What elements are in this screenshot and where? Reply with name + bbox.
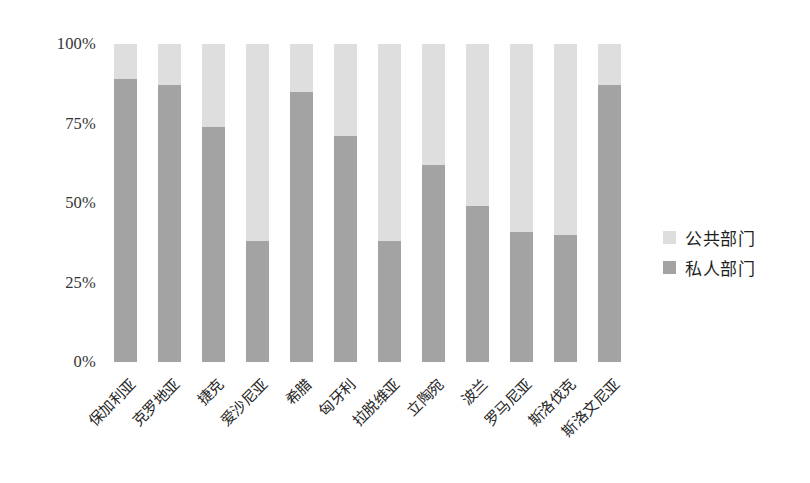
x-axis-tick-label: 保加利亚: [0, 373, 140, 483]
x-axis-tick-label: 希腊: [160, 373, 316, 483]
bar-segment-public: [334, 44, 357, 136]
legend-item[interactable]: 公共部门: [663, 222, 798, 252]
bar-segment-private: [378, 241, 401, 362]
legend-swatch-icon: [663, 231, 676, 244]
bar-segment-public: [290, 44, 313, 92]
bar-segment-public: [114, 44, 137, 79]
legend-swatch-icon: [663, 261, 676, 274]
bar-segment-private: [246, 241, 269, 362]
bar-segment-private: [598, 85, 621, 362]
bar-segment-private: [334, 136, 357, 362]
x-axis-tick-label: 斯洛伐克: [424, 373, 580, 483]
legend-label: 公共部门: [685, 225, 755, 250]
stacked-bar-chart: 0%25%50%75%100% 保加利亚克罗地亚捷克爱沙尼亚希腊匈牙利拉脱维亚立…: [0, 0, 810, 483]
x-axis-tick-label: 罗马尼亚: [380, 373, 536, 483]
x-axis-tick-label: 匈牙利: [204, 373, 360, 483]
bar-segment-private: [510, 232, 533, 362]
x-axis-tick-label: 拉脱维亚: [248, 373, 404, 483]
y-axis-tick-label: 100%: [57, 34, 96, 54]
bar-5[interactable]: [290, 44, 313, 362]
bar-4[interactable]: [246, 44, 269, 362]
bar-segment-public: [466, 44, 489, 206]
bar-8[interactable]: [422, 44, 445, 362]
bar-segment-private: [422, 165, 445, 362]
x-axis-tick-label: 捷克: [72, 373, 228, 483]
bar-6[interactable]: [334, 44, 357, 362]
bar-segment-public: [554, 44, 577, 235]
x-axis-tick-label: 爱沙尼亚: [116, 373, 272, 483]
y-axis-tick-label: 75%: [65, 114, 96, 134]
bar-segment-public: [246, 44, 269, 241]
x-axis-tick-label: 立陶宛: [292, 373, 448, 483]
bar-2[interactable]: [158, 44, 181, 362]
bar-10[interactable]: [510, 44, 533, 362]
bar-12[interactable]: [598, 44, 621, 362]
bar-segment-private: [158, 85, 181, 362]
bar-1[interactable]: [114, 44, 137, 362]
x-axis-tick-label: 波兰: [336, 373, 492, 483]
bar-segment-public: [422, 44, 445, 165]
bar-7[interactable]: [378, 44, 401, 362]
bar-segment-private: [114, 79, 137, 362]
bar-11[interactable]: [554, 44, 577, 362]
bar-segment-public: [378, 44, 401, 241]
bar-9[interactable]: [466, 44, 489, 362]
bar-segment-public: [202, 44, 225, 127]
y-axis-tick-label: 25%: [65, 273, 96, 293]
plot-area: [103, 44, 631, 362]
y-axis-tick-label: 50%: [65, 193, 96, 213]
x-axis-tick-label: 斯洛文尼亚: [468, 373, 624, 483]
bar-segment-public: [158, 44, 181, 85]
bar-segment-public: [598, 44, 621, 85]
x-axis-tick-label: 克罗地亚: [28, 373, 184, 483]
bar-segment-public: [510, 44, 533, 232]
legend-label: 私人部门: [685, 255, 755, 280]
chart-legend: 公共部门私人部门: [663, 222, 798, 282]
legend-item[interactable]: 私人部门: [663, 252, 798, 282]
bar-3[interactable]: [202, 44, 225, 362]
y-axis-tick-label: 0%: [74, 352, 96, 372]
bar-segment-private: [466, 206, 489, 362]
bar-segment-private: [554, 235, 577, 362]
bar-segment-private: [202, 127, 225, 362]
bar-segment-private: [290, 92, 313, 362]
y-axis: 0%25%50%75%100%: [40, 30, 102, 376]
